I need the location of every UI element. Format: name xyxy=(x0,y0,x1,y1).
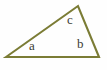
triangle-label-b: b xyxy=(77,37,84,50)
triangle-label-a: a xyxy=(29,39,35,52)
triangle-figure: a b c xyxy=(0,0,107,70)
triangle-outline xyxy=(6,6,99,57)
triangle-label-c: c xyxy=(67,13,73,26)
triangle-svg xyxy=(0,0,107,70)
